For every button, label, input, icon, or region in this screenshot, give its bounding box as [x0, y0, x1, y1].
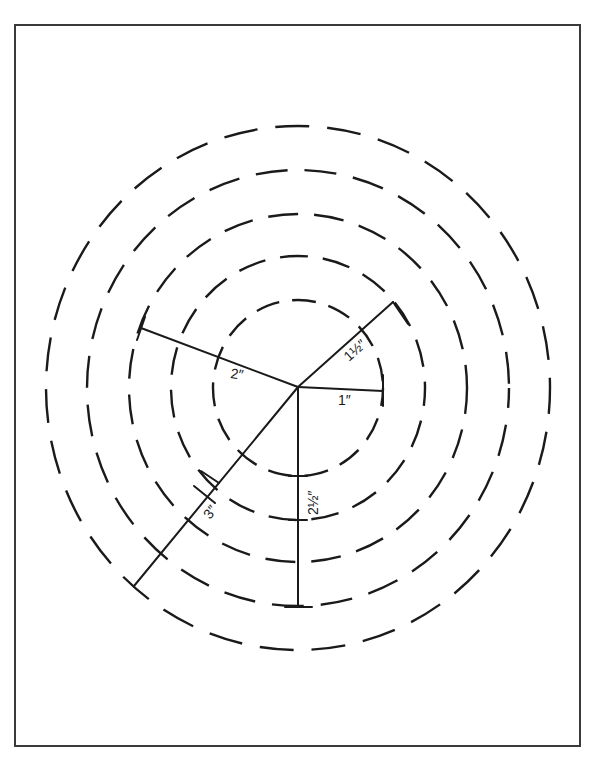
concentric-circles-diagram: 1″ 1½″ 2″ 2½″ 3″ [0, 0, 597, 758]
radius-line-1in [298, 387, 383, 391]
radius-tick-1-5in [393, 302, 408, 324]
figure-frame [15, 25, 580, 746]
label-2in: 2″ [230, 365, 245, 383]
label-1in: 1″ [338, 392, 351, 408]
radius-line-2in [141, 328, 298, 387]
label-1-5in: 1½″ [340, 336, 369, 364]
label-2-5in: 2½″ [305, 491, 321, 515]
radius-labels: 1″ 1½″ 2″ 2½″ 3″ [200, 336, 369, 522]
label-3in: 3″ [200, 502, 220, 522]
